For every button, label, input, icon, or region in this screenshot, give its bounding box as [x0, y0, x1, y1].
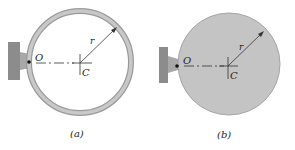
pivot-point-b [175, 64, 179, 68]
label-O-b: O [183, 55, 191, 66]
radius-line-a [80, 29, 115, 63]
caption-b: (b) [217, 129, 231, 140]
caption-a: (a) [70, 128, 84, 139]
disk [178, 13, 280, 115]
label-r-b: r [239, 42, 244, 52]
label-C-b: C [230, 70, 238, 81]
label-r-a: r [90, 36, 95, 46]
wall-support-a [8, 42, 20, 80]
figure-b: O C r (b) [159, 13, 280, 140]
pivot-point-a [27, 60, 31, 64]
wall-support-b [159, 47, 168, 83]
label-C-a: C [82, 67, 90, 78]
diagram-canvas: O C r (a) O C r (b) [0, 0, 295, 150]
label-O-a: O [35, 52, 43, 63]
figure-a: O C r (a) [8, 11, 131, 139]
